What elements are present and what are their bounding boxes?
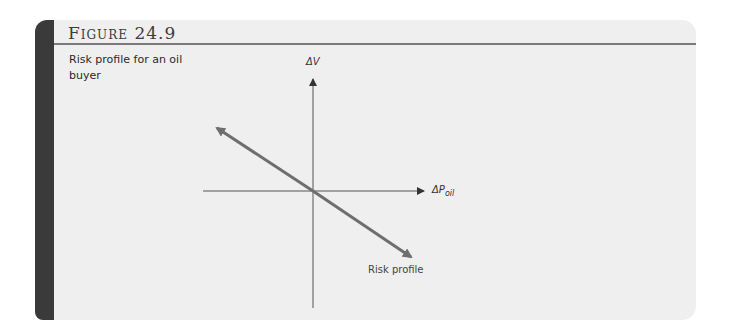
risk-profile-line-up bbox=[217, 128, 313, 191]
y-axis-label: ΔV bbox=[306, 56, 320, 67]
x-axis-label: ΔPoil bbox=[432, 184, 454, 198]
x-axis-label-sub: oil bbox=[445, 189, 454, 198]
risk-profile-label: Risk profile bbox=[368, 264, 424, 275]
x-axis-label-main: ΔP bbox=[432, 184, 445, 195]
risk-profile-line-down bbox=[313, 191, 411, 257]
risk-profile-diagram bbox=[0, 0, 730, 328]
